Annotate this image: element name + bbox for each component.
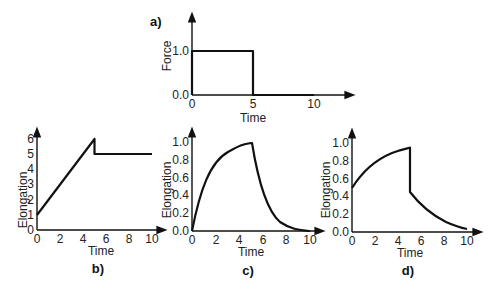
svg-text:8: 8	[283, 233, 290, 247]
svg-text:0.0: 0.0	[172, 224, 189, 238]
svg-text:4: 4	[80, 232, 87, 246]
svg-text:1.0: 1.0	[332, 136, 349, 150]
figure: a) 1.0 0.0 0 5 10 Time Force 0 1 2 3 4 5…	[0, 0, 491, 289]
x-tick: 0	[189, 97, 196, 111]
svg-text:0: 0	[189, 233, 196, 247]
panel-label-b: b)	[92, 261, 104, 276]
svg-text:10: 10	[460, 234, 474, 248]
y-axis-label: Elongation	[160, 162, 174, 219]
svg-text:6: 6	[27, 132, 34, 146]
svg-text:0.6: 0.6	[172, 171, 189, 185]
x-axis-label: Time	[397, 246, 424, 260]
svg-text:2: 2	[213, 233, 220, 247]
y-ticks: 0.0 0.2 0.4 0.6 0.8 1.0	[172, 135, 189, 238]
x-tick: 5	[250, 97, 257, 111]
y-axis-label: Elongation	[16, 172, 30, 229]
svg-text:2: 2	[57, 232, 64, 246]
x-axis-label: Time	[240, 111, 267, 125]
chart-a: a) 1.0 0.0 0 5 10 Time Force	[150, 14, 350, 125]
svg-text:0.0: 0.0	[332, 225, 349, 239]
svg-text:0.2: 0.2	[172, 206, 189, 220]
panel-label-a: a)	[150, 14, 162, 29]
y-tick: 0.0	[172, 88, 189, 102]
svg-text:0: 0	[349, 234, 356, 248]
y-axis-label: Force	[160, 40, 174, 71]
svg-text:8: 8	[441, 234, 448, 248]
chart-b: 0 1 2 3 4 5 6 0 2 4 6 8 10 Time Elongati…	[16, 132, 162, 276]
elongation-curve	[352, 148, 467, 230]
svg-text:8: 8	[126, 232, 133, 246]
x-tick: 10	[307, 97, 321, 111]
svg-text:0.8: 0.8	[172, 153, 189, 167]
svg-text:10: 10	[303, 233, 317, 247]
svg-text:2: 2	[372, 234, 379, 248]
elongation-curve	[192, 143, 310, 231]
svg-text:0.8: 0.8	[332, 154, 349, 168]
svg-text:0.6: 0.6	[332, 172, 349, 186]
chart-d: 0.0 0.2 0.4 0.6 0.8 1.0 0 2 4 6 8 10 Tim…	[319, 133, 478, 278]
svg-text:0.2: 0.2	[332, 207, 349, 221]
panel-label-c: c)	[242, 263, 254, 278]
svg-text:5: 5	[27, 147, 34, 161]
svg-text:0: 0	[34, 232, 41, 246]
chart-c: 0.0 0.2 0.4 0.6 0.8 1.0 0 2 4 6 8 10 Tim…	[160, 132, 320, 278]
y-axis-label: Elongation	[319, 162, 333, 219]
panel-label-d: d)	[402, 263, 414, 278]
y-ticks: 0.0 0.2 0.4 0.6 0.8 1.0	[332, 136, 349, 239]
svg-text:1.0: 1.0	[172, 135, 189, 149]
svg-text:10: 10	[145, 232, 159, 246]
svg-text:0.4: 0.4	[172, 188, 189, 202]
y-tick: 1.0	[172, 44, 189, 58]
svg-text:0.4: 0.4	[332, 189, 349, 203]
x-axis-label: Time	[88, 244, 115, 258]
x-axis-label: Time	[238, 245, 265, 259]
force-line	[192, 51, 314, 95]
elongation-line	[37, 139, 152, 215]
